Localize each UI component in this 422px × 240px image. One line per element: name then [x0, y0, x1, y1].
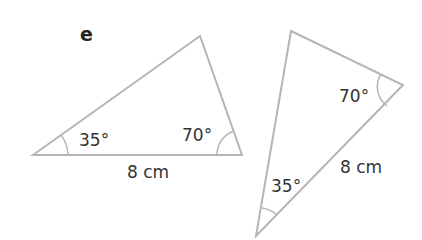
side-label: 8 cm — [127, 162, 169, 182]
angle-label: 70° — [182, 125, 212, 145]
angle-label: 35° — [271, 176, 301, 196]
angle-label: 35° — [79, 130, 109, 150]
angle-arc — [377, 74, 387, 106]
part-label: e — [80, 23, 93, 45]
right-triangle: 70° 35° 8 cm — [256, 31, 403, 236]
angle-arc — [217, 131, 234, 155]
angle-label: 70° — [339, 86, 369, 106]
side-label: 8 cm — [340, 157, 382, 177]
diagram-canvas: e 35° 70° 8 cm 70° 35° 8 cm — [0, 0, 422, 240]
left-triangle: 35° 70° 8 cm — [33, 36, 242, 182]
angle-arc — [61, 135, 68, 155]
angle-arc — [262, 208, 277, 215]
triangles-figure: e 35° 70° 8 cm 70° 35° 8 cm — [0, 0, 422, 240]
